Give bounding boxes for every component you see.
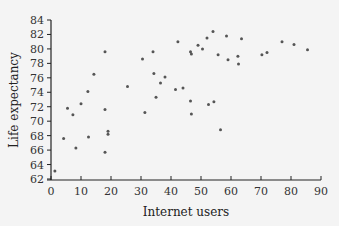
data-point: [236, 55, 239, 58]
data-point: [260, 53, 263, 56]
data-point: [225, 34, 228, 37]
data-point: [86, 90, 89, 93]
data-point: [159, 81, 162, 84]
y-tick-label: 76: [30, 72, 44, 85]
x-axis-title: Internet users: [143, 205, 229, 219]
y-axis: 626466687072747678808284: [30, 14, 51, 186]
data-point: [71, 113, 74, 116]
data-point: [53, 170, 56, 173]
data-point: [240, 37, 243, 40]
data-point: [174, 88, 177, 91]
data-point: [176, 40, 179, 43]
data-point: [306, 48, 309, 51]
data-point: [155, 96, 158, 99]
data-point: [227, 58, 230, 61]
data-point: [66, 107, 69, 110]
x-tick-label: 60: [224, 185, 238, 198]
data-point: [126, 85, 129, 88]
data-point: [164, 76, 167, 79]
x-tick-label: 50: [194, 185, 208, 198]
x-tick-label: 30: [134, 185, 148, 198]
data-point: [206, 37, 209, 40]
data-point: [104, 151, 107, 154]
data-point: [74, 146, 77, 149]
data-point: [189, 99, 192, 102]
y-tick-label: 74: [30, 86, 44, 99]
y-tick-label: 64: [30, 159, 44, 172]
data-point: [266, 51, 269, 54]
data-point: [201, 47, 204, 50]
y-tick-label: 82: [30, 28, 44, 41]
data-point: [212, 30, 215, 33]
scatter-chart: 626466687072747678808284 010203040506070…: [0, 0, 339, 226]
data-point: [152, 50, 155, 53]
data-point: [141, 58, 144, 61]
data-point: [182, 86, 185, 89]
data-point: [92, 73, 95, 76]
x-axis: 0102030405060708090: [47, 176, 328, 198]
data-point: [197, 44, 200, 47]
y-tick-label: 66: [30, 144, 44, 157]
y-tick-label: 62: [30, 173, 44, 186]
y-tick-label: 68: [30, 130, 44, 143]
data-point: [143, 111, 146, 114]
data-point: [293, 43, 296, 46]
data-point: [80, 102, 83, 105]
data-point: [104, 108, 107, 111]
data-point: [107, 133, 110, 136]
y-tick-label: 80: [30, 43, 44, 56]
x-tick-label: 0: [48, 185, 55, 198]
x-tick-label: 10: [74, 185, 88, 198]
data-point: [217, 53, 220, 56]
x-tick-label: 40: [164, 185, 178, 198]
data-point: [190, 112, 193, 115]
y-tick-label: 84: [30, 14, 44, 27]
data-point: [104, 50, 107, 53]
x-tick-label: 80: [284, 185, 298, 198]
data-point: [219, 128, 222, 131]
data-point: [207, 103, 210, 106]
y-tick-label: 78: [30, 57, 44, 70]
data-points: [53, 30, 309, 172]
y-axis-title: Life expectancy: [7, 52, 21, 148]
y-tick-label: 70: [30, 115, 44, 128]
data-point: [212, 100, 215, 103]
x-tick-label: 70: [254, 185, 268, 198]
y-tick-label: 72: [30, 101, 44, 114]
data-point: [107, 130, 110, 133]
x-tick-label: 90: [314, 185, 328, 198]
data-point: [62, 137, 65, 140]
data-point: [152, 72, 155, 75]
data-point: [237, 63, 240, 66]
x-tick-label: 20: [104, 185, 118, 198]
data-point: [281, 40, 284, 43]
data-point: [190, 52, 193, 55]
data-point: [87, 136, 90, 139]
